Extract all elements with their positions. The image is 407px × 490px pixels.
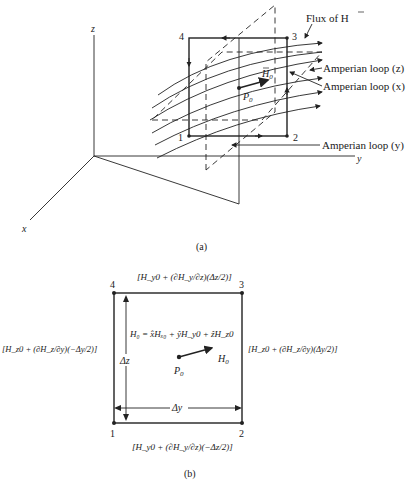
p0-label: P0 [173, 365, 184, 378]
h0-equation: H₀ = x̂Hₓ₀ + ŷH_y0 + ẑH_z0 [129, 329, 234, 339]
amperian-loop-z-label: Amperian loop (z) [323, 62, 405, 75]
figure-b: 4 3 1 2 Δz Δy H₀ = x̂Hₓ₀ + ŷH_y0 + ẑH_z0… [2, 272, 337, 480]
corner-1: 1 [178, 132, 183, 143]
y-axis-label: y [356, 153, 362, 164]
edge-top-expression: [H_y0 + (∂H_y/∂z)(Δz/2)] [137, 272, 232, 282]
amperian-loop-y-label: Amperian loop (y) [322, 139, 404, 152]
svg-text:Δy: Δy [171, 402, 183, 413]
annotation-leaders [232, 24, 322, 145]
amperian-loop-x-label: Amperian loop (x) [323, 80, 405, 93]
caption-a: (a) [196, 241, 207, 253]
flux-label: Flux of H [306, 12, 349, 24]
delta-y-dimension: Δy [114, 401, 242, 413]
corner-3: 3 [292, 31, 297, 42]
corner-4: 4 [110, 279, 115, 290]
edge-right-expression: [H_z0 + (∂H_z/∂y)(Δy/2)] [248, 344, 337, 354]
coordinate-axes: z y x [21, 23, 362, 234]
corner-1: 1 [110, 428, 115, 439]
corner-3: 3 [239, 279, 244, 290]
p0-label: P0 [242, 91, 253, 104]
delta-z-dimension: Δz [119, 295, 135, 421]
corner-4: 4 [179, 31, 184, 42]
point-p0-vector-h0: P0 H0 [237, 68, 273, 104]
caption-b: (b) [184, 468, 196, 480]
edge-bottom-expression: [H_y0 + (∂H_y/∂z)(−Δz/2)] [132, 442, 233, 452]
figure-a: z y x 4 3 1 2 [21, 5, 405, 253]
corner-2: 2 [293, 132, 298, 143]
x-axis-label: x [21, 223, 27, 234]
amperian-loop-diagram: z y x 4 3 1 2 [0, 0, 407, 490]
z-axis-label: z [90, 23, 95, 34]
h0-label: H0 [217, 353, 229, 366]
corner-2: 2 [239, 428, 244, 439]
svg-text:Δz: Δz [119, 355, 130, 366]
edge-left-expression: [H_z0 + (∂H_z/∂y)(−Δy/2)] [2, 344, 97, 354]
